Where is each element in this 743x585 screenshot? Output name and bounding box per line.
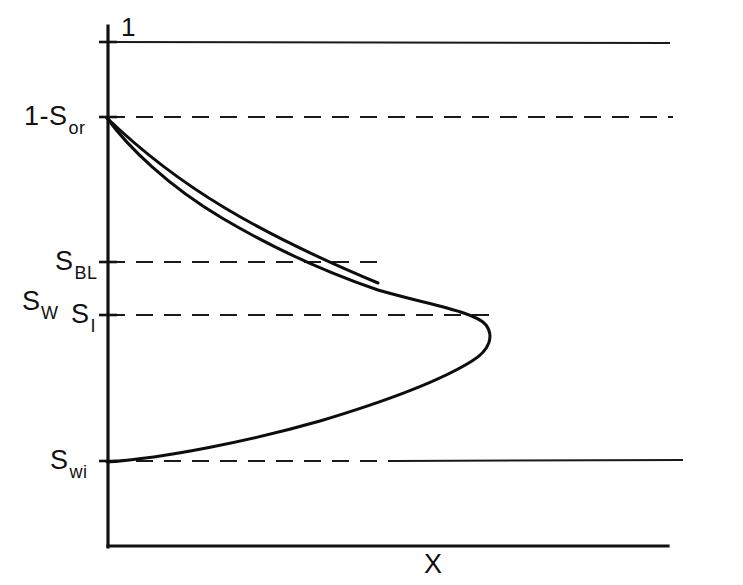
- y-axis-title: SW: [22, 288, 57, 317]
- top-line-label: 1: [121, 14, 135, 40]
- figure-root: 1 1-Sor SBL SI Swi SW X: [0, 0, 743, 585]
- y-axis-title-base: S: [22, 286, 40, 316]
- y-tick-sub-swi: wi: [70, 462, 88, 482]
- curve-layer: [0, 0, 743, 585]
- y-axis-title-sub: W: [41, 303, 58, 323]
- y-tick-base-one-minus-sor: 1-S: [24, 101, 68, 131]
- y-tick-sub-one-minus-sor: or: [69, 118, 86, 138]
- saturation-profile-final: [107, 118, 490, 462]
- x-axis-title-base: X: [424, 549, 442, 579]
- y-tick-base-sbl: S: [55, 246, 74, 276]
- y-tick-label-swi: Swi: [50, 447, 87, 476]
- x-axis-title: X: [424, 551, 442, 578]
- y-tick-label-one-minus-sor: 1-Sor: [24, 103, 85, 132]
- y-tick-base-swi: S: [50, 445, 69, 475]
- y-tick-base-si: S: [71, 299, 90, 329]
- y-tick-label-si: SI: [71, 301, 95, 330]
- y-tick-sub-si: I: [91, 316, 97, 336]
- y-tick-label-sbl: SBL: [55, 248, 97, 277]
- y-tick-sub-sbl: BL: [75, 263, 98, 283]
